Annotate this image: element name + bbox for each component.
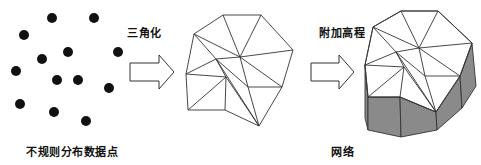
data-point [63,47,73,57]
data-point [89,13,99,23]
data-point [47,13,57,23]
data-point [15,99,25,109]
elevated-mesh [365,11,476,137]
scatter-points [11,13,123,126]
triangulation-network [186,15,293,126]
data-point [113,47,123,57]
data-point [73,75,83,85]
label-points: 不规则分布数据点 [26,143,118,159]
data-point [104,83,114,93]
data-point [11,66,21,76]
arrow-elevate-icon [311,55,354,89]
label-mesh: 网络 [331,143,354,159]
tin-diagram [0,0,481,165]
label-triangulate: 三角化 [127,24,162,40]
data-point [49,107,59,117]
arrow-triangulate-icon [130,55,174,89]
data-point [81,116,91,126]
data-point [19,30,29,40]
label-elevate: 附加高程 [319,24,365,40]
data-point [52,75,62,85]
data-point [37,54,47,64]
